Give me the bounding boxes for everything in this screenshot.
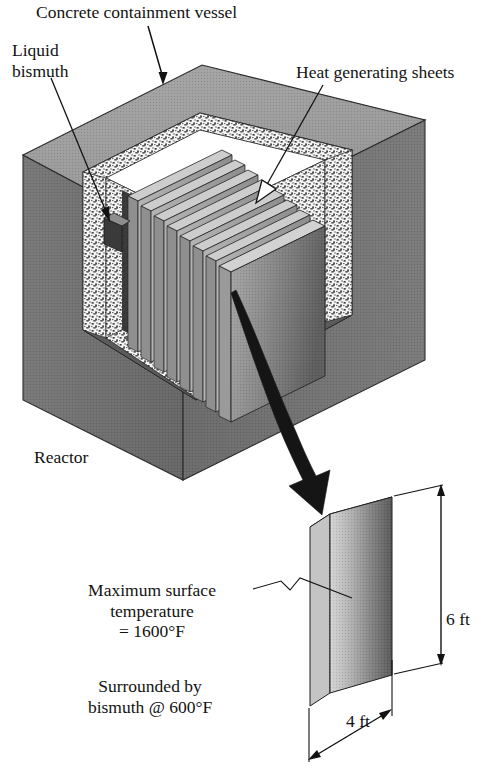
ext-line-6ft-top: [394, 485, 443, 496]
label-max-surface-line2: temperature: [110, 601, 194, 621]
technical-diagram-svg: [0, 0, 498, 773]
dimension-label-height: 6 ft: [446, 609, 470, 630]
arrowhead-4ft-right: [379, 709, 392, 720]
label-heat-generating-sheets: Heat generating sheets: [296, 62, 454, 83]
ext-line-6ft-bottom: [394, 663, 443, 674]
arrowhead-4ft-left: [308, 750, 321, 760]
label-concrete-containment-vessel: Concrete containment vessel: [36, 2, 237, 23]
label-surrounded-line1: Surrounded by: [98, 676, 202, 696]
label-surrounded-line2: bismuth @ 600°F: [88, 697, 212, 717]
dimension-label-width: 4 ft: [346, 711, 370, 732]
label-max-surface-temperature: Maximum surfacetemperature= 1600°F: [30, 580, 274, 642]
reactor-block: [23, 65, 425, 480]
plate-side-edge: [310, 514, 330, 706]
label-liquid-bismuth-line1: Liquid: [12, 40, 59, 60]
label-surrounded-by-bismuth: Surrounded bybismuth @ 600°F: [26, 676, 274, 717]
label-liquid-bismuth-line2: bismuth: [12, 61, 68, 81]
label-liquid-bismuth: Liquidbismuth: [12, 40, 68, 81]
label-max-surface-line3: = 1600°F: [119, 621, 185, 641]
figure-canvas: Concrete containment vessel Liquidbismut…: [0, 0, 498, 773]
leader-concrete: [148, 26, 163, 78]
detail-plate: [310, 497, 392, 706]
label-max-surface-line1: Maximum surface: [88, 580, 216, 600]
label-reactor: Reactor: [34, 447, 88, 468]
